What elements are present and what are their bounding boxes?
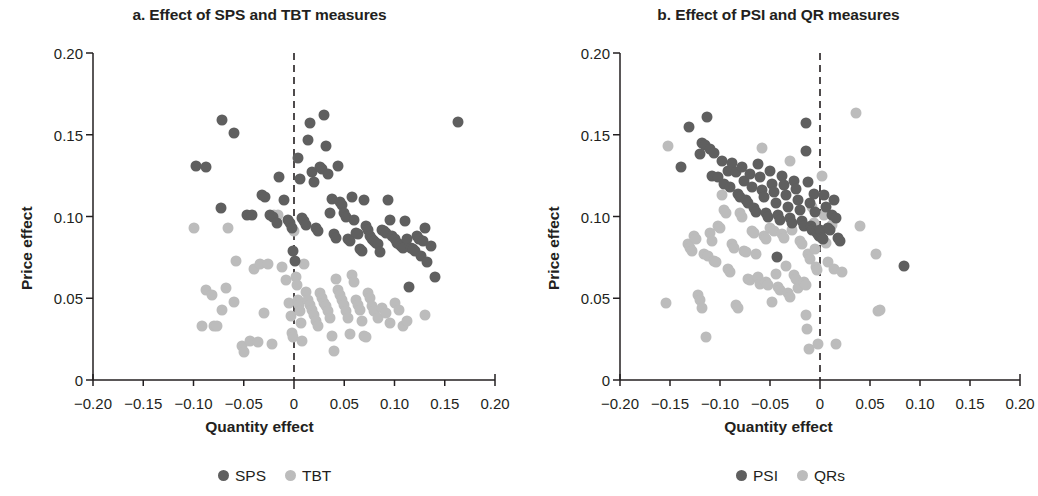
panel-a-x-tick-label: −0.10 xyxy=(175,395,213,412)
data-point-tbt xyxy=(211,321,222,332)
panel-b-y-tick-label: 0.15 xyxy=(558,126,610,143)
data-point-sps xyxy=(325,208,336,219)
data-point-sps xyxy=(286,222,297,233)
data-point-tbt xyxy=(313,321,324,332)
data-point-psi xyxy=(781,190,792,201)
data-point-tbt xyxy=(357,316,368,327)
data-point-qrs xyxy=(851,108,862,119)
data-point-sps xyxy=(321,141,332,152)
data-point-tbt xyxy=(401,316,412,327)
data-point-tbt xyxy=(262,258,273,269)
data-point-tbt xyxy=(331,273,342,284)
data-point-qrs xyxy=(802,324,813,335)
data-point-qrs xyxy=(715,222,726,233)
data-point-psi xyxy=(899,260,910,271)
data-point-tbt xyxy=(252,337,263,348)
data-point-sps xyxy=(421,257,432,268)
data-point-qrs xyxy=(812,265,823,276)
panel-b-y-tick-label: 0 xyxy=(558,372,610,389)
data-point-psi xyxy=(829,195,840,206)
panel-a-x-tick-label: −0.05 xyxy=(225,395,263,412)
data-point-qrs xyxy=(721,208,732,219)
data-point-tbt xyxy=(343,312,354,323)
panel-a-y-tick-label: 0.20 xyxy=(31,45,83,62)
data-point-sps xyxy=(333,160,344,171)
data-point-psi xyxy=(791,183,802,194)
data-point-sps xyxy=(303,134,314,145)
legend-item-sps[interactable]: SPS xyxy=(218,468,266,484)
data-point-psi xyxy=(753,159,764,170)
data-point-tbt xyxy=(355,304,366,315)
panel-b-x-tick-label: −0.20 xyxy=(601,395,639,412)
data-point-sps xyxy=(385,214,396,225)
legend-label: SPS xyxy=(235,468,266,484)
data-point-qrs xyxy=(707,236,718,247)
legend-label: PSI xyxy=(753,468,778,484)
legend-marker-icon xyxy=(736,470,747,481)
panel-b-x-tick-label: −0.05 xyxy=(751,395,789,412)
panel-a-x-tick-label: 0 xyxy=(290,395,298,412)
legend-item-qrs[interactable]: QRs xyxy=(797,468,845,484)
data-point-sps xyxy=(200,162,211,173)
legend-item-psi[interactable]: PSI xyxy=(736,468,778,484)
panel-b-x-tick-label: 0 xyxy=(816,395,824,412)
data-point-tbt xyxy=(419,309,430,320)
data-point-tbt xyxy=(276,262,287,273)
data-point-sps xyxy=(425,240,436,251)
panel-b-x-tick-label: −0.15 xyxy=(651,395,689,412)
data-point-psi xyxy=(795,204,806,215)
panel-a-y-axis-title: Price effect xyxy=(18,206,36,290)
data-point-qrs xyxy=(737,211,748,222)
legend-label: QRs xyxy=(814,468,845,484)
data-point-psi xyxy=(772,252,783,263)
data-point-psi xyxy=(818,234,829,245)
data-point-psi xyxy=(803,177,814,188)
data-point-psi xyxy=(801,146,812,157)
data-point-qrs xyxy=(813,339,824,350)
data-point-tbt xyxy=(361,332,372,343)
data-point-tbt xyxy=(216,304,227,315)
data-point-sps xyxy=(383,195,394,206)
data-point-tbt xyxy=(385,317,396,328)
data-point-psi xyxy=(771,198,782,209)
legend-item-tbt[interactable]: TBT xyxy=(285,468,331,484)
panel-b-x-tick-label: 0.20 xyxy=(1005,395,1034,412)
data-point-sps xyxy=(309,177,320,188)
panel-b: b. Effect of PSI and QR measures 0.200.1… xyxy=(519,0,1038,496)
panel-a-x-axis-title: Quantity effect xyxy=(0,418,519,436)
data-point-qrs xyxy=(810,244,821,255)
data-point-tbt xyxy=(230,255,241,266)
data-point-sps xyxy=(293,152,304,163)
legend-label: TBT xyxy=(302,468,331,484)
data-point-qrs xyxy=(875,304,886,315)
data-point-psi xyxy=(769,186,780,197)
data-point-sps xyxy=(403,281,414,292)
data-point-psi xyxy=(810,206,821,217)
data-point-sps xyxy=(278,195,289,206)
data-point-qrs xyxy=(855,221,866,232)
data-point-tbt xyxy=(238,347,249,358)
data-point-qrs xyxy=(771,268,782,279)
data-point-sps xyxy=(271,218,282,229)
data-point-qrs xyxy=(711,257,722,268)
data-point-qrs xyxy=(831,339,842,350)
panel-a-legend: SPSTBT xyxy=(218,468,343,484)
data-point-qrs xyxy=(785,155,796,166)
data-point-qrs xyxy=(725,267,736,278)
data-point-psi xyxy=(831,213,842,224)
data-point-tbt xyxy=(329,345,340,356)
panel-a-y-tick-label: 0 xyxy=(31,372,83,389)
data-point-tbt xyxy=(327,330,338,341)
data-point-qrs xyxy=(751,249,762,260)
data-point-sps xyxy=(273,172,284,183)
data-point-tbt xyxy=(220,283,231,294)
panel-a-x-tick-label: 0.10 xyxy=(380,395,409,412)
data-point-tbt xyxy=(206,289,217,300)
panel-b-x-tick-label: −0.10 xyxy=(701,395,739,412)
data-point-qrs xyxy=(767,296,778,307)
panel-b-x-tick-label: 0.15 xyxy=(955,395,984,412)
data-point-qrs xyxy=(801,280,812,291)
data-point-qrs xyxy=(661,298,672,309)
data-point-qrs xyxy=(701,332,712,343)
panel-a: a. Effect of SPS and TBT measures 0.200.… xyxy=(0,0,519,496)
